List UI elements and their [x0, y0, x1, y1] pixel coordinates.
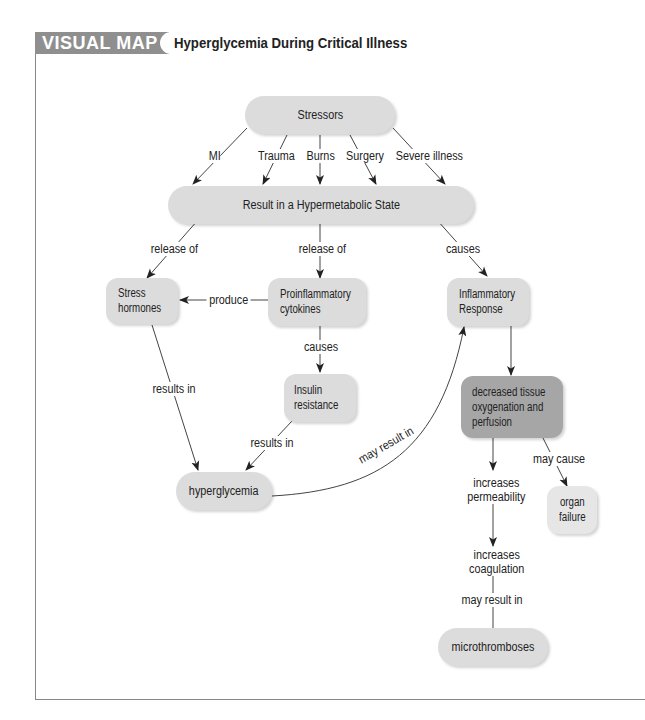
edge-label-burns: Burns	[307, 149, 335, 163]
node-inflammatory-label: InflammatoryResponse	[459, 287, 521, 317]
line-1: decreased tissue	[472, 385, 545, 400]
node-hyperglycemia: hyperglycemia	[176, 472, 272, 510]
node-stress-hormones: Stresshormones	[106, 278, 178, 324]
line-1: organ	[559, 495, 585, 510]
node-microthromboses-label: microthromboses	[452, 640, 535, 655]
node-hypermetabolic-state: Result in a Hypermetabolic State	[168, 186, 474, 224]
node-insulin-resistance: Insulinresistance	[284, 374, 356, 422]
edge-label-results-in-insulin: results in	[250, 436, 293, 450]
edge-label-mi: MI	[209, 149, 221, 163]
node-inflammatory-response: InflammatoryResponse	[447, 278, 529, 326]
edge-label-causes-insulin: causes	[304, 340, 338, 354]
edge-label-release-of-hormones: release of	[151, 242, 198, 256]
line-2: failure	[559, 510, 585, 525]
edge-label-causes-inflammatory: causes	[446, 242, 480, 256]
line-2: resistance	[294, 398, 338, 413]
edge-label-severe-illness: Severe illness	[396, 149, 463, 163]
edge-label-trauma: Trauma	[258, 149, 295, 163]
edge-label-release-of-cytokines: release of	[299, 242, 346, 256]
line-2: cytokines	[280, 302, 351, 317]
edge-label-results-in-hormones: results in	[152, 382, 195, 396]
node-cytokines-label: Proinflammatorycytokines	[280, 287, 359, 317]
line-1: Proinflammatory	[280, 287, 351, 302]
node-hyperglycemia-label: hyperglycemia	[189, 484, 259, 499]
edge-label-increases-coagulation: increases coagulation	[469, 548, 524, 576]
node-organ-failure-label: organfailure	[557, 495, 586, 525]
edge-label-increases-permeability: increases permeability	[467, 476, 525, 504]
node-microthromboses: microthromboses	[438, 628, 548, 666]
line-1: increases	[469, 548, 524, 562]
edge-label-may-result-in-microthromboses: may result in	[461, 593, 522, 607]
line-1: Insulin	[294, 383, 338, 398]
line-1: Stress	[118, 286, 161, 301]
edge-label-may-cause: may cause	[533, 452, 585, 466]
node-decreased-tissue-oxygenation: decreased tissueoxygenation andperfusion	[461, 376, 563, 438]
node-hypermetabolic-label: Result in a Hypermetabolic State	[242, 198, 399, 213]
node-stress-hormones-label: Stresshormones	[118, 286, 166, 316]
node-stressors: Stressors	[245, 96, 395, 134]
node-proinflammatory-cytokines: Proinflammatorycytokines	[268, 278, 366, 326]
edge-label-produce: produce	[206, 293, 250, 307]
line-2: oxygenation and	[472, 400, 545, 415]
line-2: coagulation	[469, 562, 524, 576]
line-2: Response	[459, 302, 515, 317]
node-stressors-label: Stressors	[297, 108, 343, 123]
line-2: hormones	[118, 301, 161, 316]
line-1: increases	[467, 476, 525, 490]
node-organ-failure: organfailure	[547, 486, 597, 534]
node-decreased-label: decreased tissueoxygenation andperfusion	[472, 385, 554, 430]
line-2: permeability	[467, 490, 525, 504]
line-3: perfusion	[472, 415, 545, 430]
node-insulin-label: Insulinresistance	[294, 383, 343, 413]
edge-label-surgery: Surgery	[346, 149, 384, 163]
line-1: Inflammatory	[459, 287, 515, 302]
